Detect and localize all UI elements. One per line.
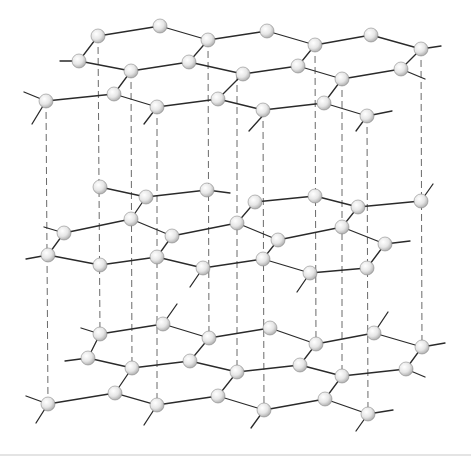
bond xyxy=(189,62,243,74)
carbon-atom-icon xyxy=(361,407,375,421)
carbon-atom-icon xyxy=(93,180,107,194)
bond xyxy=(264,399,325,410)
carbon-atom-icon xyxy=(257,403,271,417)
carbon-atom-icon xyxy=(93,327,107,341)
carbon-atom-icon xyxy=(360,261,374,275)
bond xyxy=(315,35,371,45)
bond xyxy=(255,196,315,202)
bond xyxy=(79,61,131,71)
bond xyxy=(98,26,160,36)
bond xyxy=(270,328,316,344)
carbon-atom-icon xyxy=(230,216,244,230)
carbon-atom-icon xyxy=(335,220,349,234)
carbon-atom-icon xyxy=(256,103,270,117)
bond xyxy=(342,369,406,376)
carbon-atom-icon xyxy=(263,321,277,335)
bond xyxy=(278,227,342,240)
bond xyxy=(157,396,218,405)
carbon-atom-icon xyxy=(107,87,121,101)
carbon-atom-icon xyxy=(317,96,331,110)
bond xyxy=(64,219,131,233)
carbon-atom-icon xyxy=(125,361,139,375)
carbon-atom-icon xyxy=(351,200,365,214)
carbon-atom-icon xyxy=(415,340,429,354)
carbon-atom-icon xyxy=(367,326,381,340)
carbon-atom-icon xyxy=(150,100,164,114)
bond xyxy=(48,393,115,404)
carbon-atom-icon xyxy=(360,109,374,123)
carbon-atom-icon xyxy=(308,38,322,52)
carbon-atom-icon xyxy=(303,266,317,280)
carbon-atom-icon xyxy=(150,250,164,264)
carbon-atom-icon xyxy=(378,237,392,251)
carbon-atom-icon xyxy=(124,212,138,226)
carbon-atom-icon xyxy=(308,189,322,203)
bond xyxy=(100,257,157,265)
carbon-atom-icon xyxy=(260,24,274,38)
bond xyxy=(310,268,367,273)
carbon-atom-icon xyxy=(291,59,305,73)
bond xyxy=(160,26,208,40)
carbon-atom-icon xyxy=(309,337,323,351)
carbon-atom-icon xyxy=(211,389,225,403)
bond xyxy=(342,69,401,79)
carbon-atom-icon xyxy=(72,54,86,68)
carbon-atom-icon xyxy=(364,28,378,42)
bond xyxy=(237,365,300,372)
carbon-atom-icon xyxy=(394,62,408,76)
bond xyxy=(263,259,310,273)
carbon-atom-icon xyxy=(81,351,95,365)
bond xyxy=(243,66,298,74)
bond xyxy=(146,190,207,197)
carbon-atom-icon xyxy=(230,365,244,379)
graphite-structure-diagram: Graphite layered hexagonal crystal struc… xyxy=(0,0,471,457)
carbon-atom-icon xyxy=(91,29,105,43)
carbon-atom-icon xyxy=(248,195,262,209)
carbon-atom-icon xyxy=(108,386,122,400)
carbon-atom-icon xyxy=(236,67,250,81)
carbon-atom-icon xyxy=(150,398,164,412)
carbon-atom-icon xyxy=(335,369,349,383)
carbon-atom-icon xyxy=(201,33,215,47)
carbon-atom-icon xyxy=(57,226,71,240)
carbon-atom-icon xyxy=(335,72,349,86)
carbon-atom-icon xyxy=(124,64,138,78)
carbon-atom-icon xyxy=(200,183,214,197)
carbon-atom-icon xyxy=(41,397,55,411)
bond xyxy=(131,62,189,71)
carbon-atom-icon xyxy=(211,92,225,106)
bond xyxy=(209,328,270,338)
bond xyxy=(316,333,374,344)
carbon-atom-icon xyxy=(318,392,332,406)
bond xyxy=(374,333,422,347)
carbon-atom-icon xyxy=(182,55,196,69)
bond xyxy=(208,31,267,40)
bond xyxy=(172,223,237,236)
top-layer-bonds xyxy=(24,26,441,131)
carbon-atom-icon xyxy=(399,362,413,376)
carbon-atom-icon xyxy=(202,331,216,345)
middle-layer-bonds xyxy=(26,184,433,292)
crystal-lattice-canvas xyxy=(0,0,471,457)
carbon-atom-icon xyxy=(293,358,307,372)
carbon-atom-icon xyxy=(414,194,428,208)
carbon-atom-icon xyxy=(165,229,179,243)
carbon-atom-icon xyxy=(183,354,197,368)
carbon-atom-icon xyxy=(196,261,210,275)
top-layer-atoms xyxy=(39,19,428,123)
carbon-atom-icon xyxy=(156,317,170,331)
carbon-atom-icon xyxy=(414,42,428,56)
carbon-atom-icon xyxy=(41,248,55,262)
bond xyxy=(46,94,114,101)
carbon-atom-icon xyxy=(93,258,107,272)
bottom-layer-atoms xyxy=(41,317,429,421)
carbon-atom-icon xyxy=(39,94,53,108)
bond xyxy=(267,31,315,45)
carbon-atom-icon xyxy=(256,252,270,266)
bond xyxy=(203,259,263,268)
carbon-atom-icon xyxy=(153,19,167,33)
carbon-atom-icon xyxy=(271,233,285,247)
bond xyxy=(371,35,421,49)
carbon-atom-icon xyxy=(139,190,153,204)
bond xyxy=(48,255,100,265)
